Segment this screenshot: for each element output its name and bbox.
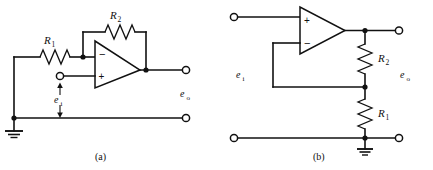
circuit-a-output-voltage-label: e [180,88,185,99]
circuit-b-r2-label: R [377,52,385,64]
circuit-a-input-voltage-subscript: i [61,100,63,108]
circuit-b-output-voltage-label: e [400,69,405,80]
circuit-a-r1-subscript: 1 [52,40,56,49]
circuit-a-output-voltage-subscript: o [187,94,191,102]
resistor-a-r1-zigzag [40,50,70,64]
circuit-b-output-terminal-top[interactable] [395,27,402,34]
circuit-b-caption: (b) [313,151,325,163]
resistor-a-r2-zigzag [105,25,135,39]
resistor-b-r2-zigzag [358,44,372,74]
circuit-a-output-terminal-top[interactable] [182,66,189,73]
circuit-b-r1-label: R [377,107,385,119]
circuit-b-input-voltage-subscript: i [243,75,245,83]
circuit-b-output-terminal-bottom[interactable] [395,134,402,141]
resistor-b-r1-zigzag [358,99,372,129]
circuit-a-group: − + e i [5,9,191,163]
circuit-a-caption: (a) [95,151,106,163]
node-a-output [143,67,148,72]
circuit-b-input-terminal-top[interactable] [230,13,237,20]
opamp-a-noninverting-sign: + [99,71,105,82]
circuit-b-r1-subscript: 1 [386,113,390,122]
opamp-a-inverting-sign: − [99,48,105,60]
circuit-a-output-terminal-bottom[interactable] [182,114,189,121]
circuit-a-r2-label: R [109,9,117,21]
opamp-b-noninverting-sign: + [304,15,310,26]
circuit-a-r2-subscript: 2 [118,15,122,24]
arrow-a-ei-up-head [57,83,63,89]
arrow-a-ei-down-head [57,113,63,119]
opamp-b-inverting-sign: − [304,37,310,49]
circuit-a-r1-label: R [43,34,51,46]
circuit-diagram-canvas: − + e i [0,0,433,170]
circuit-b-r2-subscript: 2 [386,58,390,67]
circuit-a-input-voltage-label: e [54,94,59,105]
circuit-b-input-terminal-bottom[interactable] [230,134,237,141]
circuit-b-output-voltage-subscript: o [407,75,411,83]
figure-root: − + e i [0,0,433,170]
circuit-b-input-voltage-label: e [236,69,241,80]
circuit-b-group: + − [230,7,410,163]
circuit-a-input-terminal[interactable] [56,72,63,79]
